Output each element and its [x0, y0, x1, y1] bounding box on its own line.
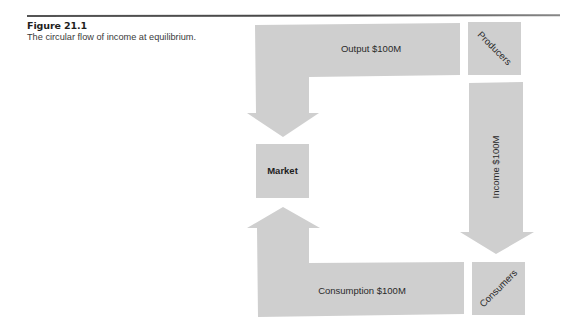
circular-flow-diagram: Output $100M Producers Income $100M Mark…	[0, 0, 565, 331]
consumption-flow-arrow: Consumption $100M	[247, 207, 464, 317]
consumers-node: Consumers	[472, 262, 525, 315]
income-flow-arrow: Income $100M	[460, 82, 534, 254]
consumption-flow-label: Consumption $100M	[318, 285, 406, 296]
output-flow-arrow: Output $100M	[247, 23, 460, 137]
market-node: Market	[256, 144, 309, 198]
output-flow-label: Output $100M	[341, 43, 401, 54]
market-label: Market	[267, 165, 298, 176]
producers-node: Producers	[468, 22, 521, 75]
income-flow-label: Income $100M	[490, 135, 501, 198]
